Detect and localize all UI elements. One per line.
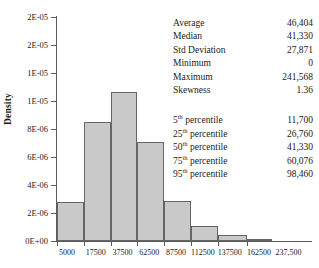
stat-value: 41,330 [287, 30, 313, 43]
stat-label: Average [173, 17, 204, 30]
histogram-chart: Density 0E+002E-064E-066E-068E-061E-051E… [0, 0, 319, 268]
x-axis-tick-label: 37500 [113, 248, 133, 258]
stat-value: 1.36 [296, 84, 313, 97]
y-axis-tick: 2E-05 [0, 40, 57, 50]
stat-label: 50th percentile [173, 141, 227, 154]
stat-value: 41,330 [287, 141, 313, 154]
y-axis-tick-label: 1E-05 [27, 96, 48, 106]
stat-label: Std Deviation [173, 44, 226, 57]
stat-label: 5th percentile [173, 114, 223, 127]
stat-label: Skewness [173, 84, 210, 97]
stat-label: Minimum [173, 57, 211, 70]
stat-value: 241,568 [282, 71, 313, 84]
histogram-bar [247, 239, 273, 241]
stat-value: 60,076 [287, 155, 313, 168]
y-axis-tick-label: 2E-05 [27, 40, 48, 50]
histogram-bar [111, 92, 138, 241]
y-axis-tick: 4E-06 [0, 180, 57, 190]
summary-statistics-list: Average46,404Median41,330Std Deviation27… [173, 17, 313, 97]
y-axis-tick: 0E+00 [0, 236, 57, 246]
y-axis-tick-label: 1E-05 [27, 68, 48, 78]
percentile-statistics-list: 5th percentile11,70025th percentile26,76… [173, 114, 313, 181]
y-axis-tick: 6E-06 [0, 152, 57, 162]
x-axis-line [56, 241, 312, 242]
x-axis-tick-mark [57, 241, 58, 246]
y-axis-tick-label: 6E-06 [27, 152, 48, 162]
x-axis-tick-mark [111, 241, 112, 246]
summary-stat-row: Median41,330 [173, 30, 313, 43]
stat-label: Median [173, 30, 202, 43]
x-axis-tick-label: 112500 [191, 248, 215, 258]
y-axis-tick-label: 8E-06 [27, 124, 48, 134]
stat-value: 0 [308, 57, 313, 70]
stat-label: Maximum [173, 71, 213, 84]
y-axis-tick: 2E-06 [0, 208, 57, 218]
y-axis-tick-label: 2E-05 [27, 12, 48, 22]
x-axis-tick-label: 62500 [139, 248, 159, 258]
stat-value: 27,871 [287, 44, 313, 57]
y-axis-tick: 1E-05 [0, 68, 57, 78]
stat-value: 98,460 [287, 168, 313, 181]
stat-value: 11,700 [287, 114, 313, 127]
histogram-bar [164, 201, 191, 241]
summary-stat-row: Average46,404 [173, 17, 313, 30]
stat-value: 26,760 [287, 128, 313, 141]
percentile-stat-row: 95th percentile98,460 [173, 168, 313, 181]
summary-stat-row: Skewness1.36 [173, 84, 313, 97]
x-axis-tick-mark [164, 241, 165, 246]
x-axis-tick-mark [191, 241, 192, 246]
stats-spacer [173, 97, 313, 114]
y-axis-tick-label: 2E-06 [27, 208, 48, 218]
x-axis-tick-mark [218, 241, 219, 246]
percentile-stat-row: 25th percentile26,760 [173, 128, 313, 141]
y-axis-tick: 8E-06 [0, 124, 57, 134]
stat-label: 95th percentile [173, 168, 227, 181]
histogram-bar [218, 235, 247, 241]
histogram-bar [57, 202, 84, 241]
histogram-bar [191, 226, 218, 241]
x-axis-tick-label: 17500 [86, 248, 106, 258]
x-axis-tick-mark [247, 241, 248, 246]
x-axis-tick-mark [84, 241, 85, 246]
percentile-stat-row: 5th percentile11,700 [173, 114, 313, 127]
summary-stat-row: Maximum241,568 [173, 71, 313, 84]
summary-stat-row: Minimum0 [173, 57, 313, 70]
stat-label: 25th percentile [173, 128, 227, 141]
x-axis-tick-mark [137, 241, 138, 246]
stat-value: 46,404 [287, 17, 313, 30]
histogram-bar [137, 142, 164, 241]
x-axis-tick-label: 162500 [247, 248, 271, 258]
x-axis-tick-label: 137500 [218, 248, 242, 258]
stat-label: 75th percentile [173, 155, 227, 168]
y-axis-tick-label: 0E+00 [25, 236, 48, 246]
statistics-panel: Average46,404Median41,330Std Deviation27… [173, 17, 313, 181]
summary-stat-row: Std Deviation27,871 [173, 44, 313, 57]
percentile-stat-row: 50th percentile41,330 [173, 141, 313, 154]
percentile-stat-row: 75th percentile60,076 [173, 155, 313, 168]
histogram-bar [84, 122, 111, 241]
x-axis-tick-label: 5000 [59, 248, 75, 258]
x-axis-tick-label: 237,500 [276, 248, 302, 258]
x-axis-tick-label: 87500 [166, 248, 186, 258]
y-axis-tick: 2E-05 [0, 12, 57, 22]
y-axis-tick-label: 4E-06 [27, 180, 48, 190]
y-axis-tick: 1E-05 [0, 96, 57, 106]
